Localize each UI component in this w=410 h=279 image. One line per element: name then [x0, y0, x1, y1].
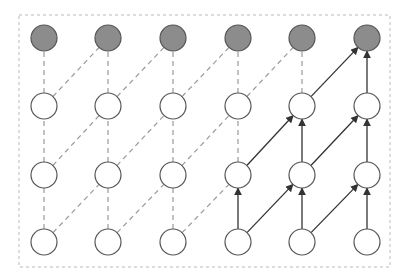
active-edge-arrow: [247, 184, 293, 232]
active-edges: [238, 47, 367, 232]
hidden-1-node-0: [31, 162, 57, 188]
dashed-edge: [247, 47, 293, 96]
input-node-0: [31, 229, 57, 255]
diagram-canvas: [0, 0, 410, 279]
hidden-1-node-3: [225, 162, 251, 188]
dashed-edge: [117, 184, 164, 232]
output-node-2: [160, 25, 186, 51]
dashed-edge: [117, 115, 164, 165]
dashed-edge: [53, 47, 99, 96]
hidden-2-node-3: [225, 93, 251, 119]
input-node-2: [160, 229, 186, 255]
hidden-2-node-2: [160, 93, 186, 119]
dashed-edge: [53, 116, 99, 166]
hidden-2-node-0: [31, 93, 57, 119]
hidden-2-node-4: [289, 93, 315, 119]
active-edge-arrow: [311, 115, 358, 165]
hidden-1-node-5: [354, 162, 380, 188]
hidden-1-node-4: [289, 162, 315, 188]
input-node-5: [354, 229, 380, 255]
hidden-2-node-1: [95, 93, 121, 119]
hidden-2-node-5: [354, 93, 380, 119]
nodes: [31, 25, 380, 255]
output-node-5: [354, 25, 380, 51]
output-node-3: [225, 25, 251, 51]
input-node-1: [95, 229, 121, 255]
active-edge-arrow: [311, 47, 358, 96]
hidden-1-node-2: [160, 162, 186, 188]
dilated-convolution-diagram: [0, 0, 410, 279]
input-node-4: [289, 229, 315, 255]
output-node-0: [31, 25, 57, 51]
dashed-edge: [53, 184, 99, 232]
active-edge-arrow: [311, 184, 358, 232]
dashed-edge: [182, 115, 229, 165]
output-node-4: [289, 25, 315, 51]
input-node-3: [225, 229, 251, 255]
hidden-1-node-1: [95, 162, 121, 188]
inactive-edges: [44, 47, 302, 232]
dashed-edge: [182, 47, 229, 96]
active-edge-arrow: [247, 116, 293, 166]
dashed-edge: [182, 184, 229, 232]
dashed-edge: [117, 47, 164, 96]
output-node-1: [95, 25, 121, 51]
